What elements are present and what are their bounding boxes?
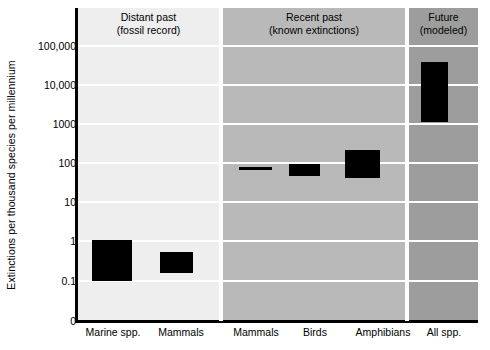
y-tick-10000: 10,000	[18, 80, 76, 91]
gridline-100	[409, 162, 478, 164]
y-axis-title-text: Extinctions per thousand species per mil…	[5, 60, 17, 289]
bar-mammals-recent	[239, 167, 272, 170]
y-tick-1: 1	[18, 236, 76, 247]
bar-amphibians	[345, 150, 380, 178]
x-tick-mammals-fossil: Mammals	[158, 326, 204, 339]
panel-future-title-line2: (modeled)	[409, 24, 478, 37]
plot-area: Distant past (fossil record) Recent past…	[78, 8, 478, 321]
gridline-0.1	[409, 280, 478, 282]
panel-recent-past-title-line2: (known extinctions)	[223, 24, 405, 37]
y-tick-0: 0	[18, 316, 76, 327]
y-tick-10: 10	[18, 197, 76, 208]
panel-future-title-line1: Future	[428, 11, 458, 23]
gridline-1	[409, 240, 478, 242]
panel-recent-past-title: Recent past (known extinctions)	[223, 11, 405, 36]
gridline-10	[78, 201, 219, 203]
bar-all-spp	[421, 62, 448, 122]
panel-divider-2	[405, 8, 409, 321]
y-tick-100000: 100,000	[18, 41, 76, 52]
panel-distant-past-title-line2: (fossil record)	[78, 24, 219, 37]
gridline-100000	[223, 45, 405, 47]
panel-distant-past-title: Distant past (fossil record)	[78, 11, 219, 36]
gridline-10000	[78, 84, 219, 86]
x-tick-all-spp: All spp.	[427, 326, 461, 339]
x-tick-birds: Birds	[303, 326, 327, 339]
gridline-1000	[409, 123, 478, 125]
gridline-100	[78, 162, 219, 164]
y-axis-tick-labels: 100,000 10,000 1000 100 10 1 0.1 0	[18, 0, 76, 350]
panel-future-title: Future (modeled)	[409, 11, 478, 36]
x-axis-tick-labels: Marine spp. Mammals Mammals Birds Amphib…	[78, 326, 478, 346]
gridline-10	[223, 201, 405, 203]
panel-recent-past-title-line1: Recent past	[286, 11, 342, 23]
y-axis-line	[75, 8, 78, 323]
panel-recent-past: Recent past (known extinctions)	[223, 8, 405, 321]
bar-birds	[289, 164, 320, 176]
gridline-10	[409, 201, 478, 203]
panel-distant-past: Distant past (fossil record)	[78, 8, 219, 321]
bar-mammals-fossil	[160, 252, 193, 273]
gridline-100000	[78, 45, 219, 47]
extinction-rate-chart: Extinctions per thousand species per mil…	[0, 0, 490, 350]
x-tick-marine-spp: Marine spp.	[86, 326, 141, 339]
x-tick-amphibians: Amphibians	[356, 326, 411, 339]
gridline-1000	[78, 123, 219, 125]
panel-divider-1	[219, 8, 223, 321]
gridline-100000	[409, 45, 478, 47]
panel-distant-past-title-line1: Distant past	[121, 11, 176, 23]
y-tick-0.1: 0.1	[18, 276, 76, 287]
gridline-0.1	[223, 280, 405, 282]
x-axis-line	[75, 320, 478, 323]
panel-future: Future (modeled)	[409, 8, 478, 321]
gridline-1	[223, 240, 405, 242]
gridline-10000	[223, 84, 405, 86]
bar-marine-spp	[92, 240, 132, 281]
y-tick-1000: 1000	[18, 119, 76, 130]
gridline-1000	[223, 123, 405, 125]
x-tick-mammals-recent: Mammals	[233, 326, 279, 339]
y-tick-100: 100	[18, 158, 76, 169]
